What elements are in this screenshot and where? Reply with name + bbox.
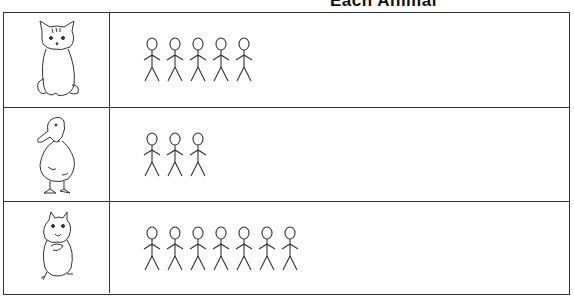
cat-cell: [4, 13, 110, 107]
row-duck: [4, 107, 569, 201]
person-icon: [189, 226, 207, 272]
row-chipmunk: [4, 201, 569, 293]
person-icon: [212, 37, 230, 83]
person-icon: [166, 37, 184, 83]
person-icon: [166, 132, 184, 178]
person-icon: [143, 132, 161, 178]
person-icon: [258, 226, 276, 272]
person-icon: [235, 226, 253, 272]
duck-icon: [34, 115, 80, 195]
person-icon: [166, 226, 184, 272]
pictograph-table: [3, 12, 570, 295]
person-icon: [143, 37, 161, 83]
person-icon: [189, 132, 207, 178]
person-icon: [189, 37, 207, 83]
person-icon: [143, 226, 161, 272]
chart-title: Each Animal: [330, 0, 437, 11]
chipmunk-cell: [4, 202, 110, 293]
duck-cell: [4, 108, 110, 201]
cat-figures: [110, 13, 569, 107]
cat-icon: [32, 21, 82, 99]
chipmunk-figures: [110, 202, 569, 293]
duck-figures: [110, 108, 569, 201]
person-icon: [212, 226, 230, 272]
chipmunk-icon: [37, 212, 77, 284]
person-icon: [281, 226, 299, 272]
row-cat: [4, 13, 569, 107]
person-icon: [235, 37, 253, 83]
